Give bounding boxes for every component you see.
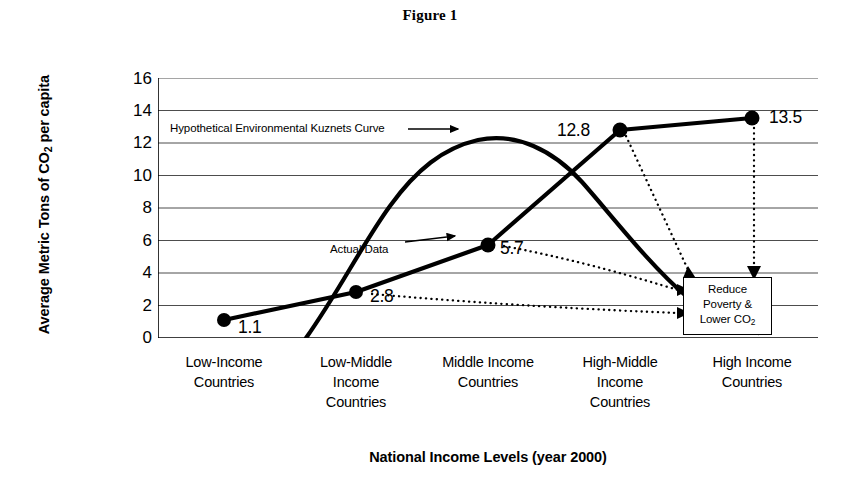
- callout-line-3-prefix: Lower CO: [700, 313, 751, 325]
- x-category-label-high-income: High Income Countries: [686, 352, 818, 392]
- x-category-label-middle-income: Middle Income Countries: [422, 352, 554, 392]
- y-tick-label-10: 10: [108, 167, 152, 184]
- y-tick-label-16: 16: [108, 70, 152, 87]
- x-category-label-low-income: Low-Income Countries: [158, 352, 290, 392]
- data-value-label-1: 1.1: [238, 317, 261, 338]
- callout-line-2: Poverty &: [684, 297, 771, 312]
- x-category-line: Countries: [686, 372, 818, 392]
- dotted-arrow-from-12-8: [626, 136, 690, 274]
- x-category-line: Countries: [422, 372, 554, 392]
- data-point-marker: [349, 285, 363, 299]
- y-axis-title: Average Metric Tons of CO2 per capita: [36, 40, 53, 370]
- data-value-label-4: 12.8: [557, 120, 590, 141]
- callout-box: Reduce Poverty & Lower CO2: [683, 277, 772, 335]
- dotted-arrow-from-2-8: [372, 294, 678, 313]
- y-tick-label-8: 8: [108, 199, 152, 216]
- x-category-label-high-middle-income: High-Middle Income Countries: [554, 352, 686, 412]
- x-category-line: Low-Income: [158, 352, 290, 372]
- y-tick-label-14: 14: [108, 102, 152, 119]
- x-category-label-low-middle-income: Low-Middle Income Countries: [290, 352, 422, 412]
- data-point-marker: [217, 313, 231, 327]
- y-axis-title-sub: 2: [43, 147, 54, 153]
- callout-line-1: Reduce: [684, 282, 771, 297]
- callout-line-3: Lower CO2: [684, 312, 771, 330]
- x-category-line: Countries: [554, 392, 686, 412]
- y-axis-title-suffix: per capita: [36, 75, 52, 146]
- x-category-line: Income: [290, 372, 422, 392]
- y-tick-label-4: 4: [108, 264, 152, 281]
- data-value-label-2: 2.8: [370, 286, 393, 307]
- y-tick-label-0: 0: [108, 329, 152, 346]
- figure-root: Figure 1 Average Metric Tons of CO2 per …: [0, 0, 860, 493]
- x-category-line: Low-Middle: [290, 352, 422, 372]
- x-category-line: Countries: [290, 392, 422, 412]
- y-axis-title-prefix: Average Metric Tons of CO: [36, 152, 52, 334]
- x-category-line: High Income: [686, 352, 818, 372]
- x-category-line: High-Middle: [554, 352, 686, 372]
- kuznets-curve-label: Hypothetical Environmental Kuznets Curve: [170, 122, 385, 134]
- actual-data-line: [224, 118, 752, 320]
- actual-data-label: Actual Data: [330, 243, 388, 255]
- callout-line-3-sub: 2: [751, 318, 756, 327]
- x-category-line: Countries: [158, 372, 290, 392]
- y-tick-label-6: 6: [108, 232, 152, 249]
- x-category-line: Middle Income: [422, 352, 554, 372]
- y-tick-label-12: 12: [108, 134, 152, 151]
- data-value-label-3: 5.7: [500, 238, 523, 259]
- x-category-line: Income: [554, 372, 686, 392]
- figure-title: Figure 1: [0, 7, 860, 24]
- x-axis-title: National Income Levels (year 2000): [158, 449, 818, 465]
- gridlines: [158, 78, 818, 306]
- data-point-marker: [745, 111, 760, 126]
- y-tick-label-2: 2: [108, 297, 152, 314]
- dotted-arrow-from-5-7: [504, 246, 678, 290]
- data-point-marker: [481, 238, 496, 253]
- actual-data-leader-arrow: [405, 236, 455, 242]
- data-value-label-5: 13.5: [769, 107, 802, 128]
